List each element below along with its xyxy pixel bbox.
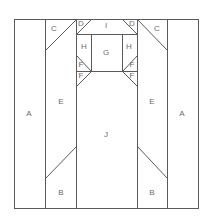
piece-label-c-right: C	[154, 24, 160, 33]
piece-label-h-left: H	[81, 42, 87, 51]
piece-label-e-left: E	[58, 97, 63, 106]
piece-label-b-right: B	[149, 188, 154, 197]
piece-label-c-left: C	[51, 24, 57, 33]
b-diagonal-right	[138, 147, 168, 179]
piece-label-d-right: D	[129, 19, 135, 28]
piece-label-a-left: A	[26, 109, 32, 118]
piece-label-a-right: A	[179, 109, 185, 118]
piece-label-b-left: B	[58, 188, 63, 197]
piece-label-d-left: D	[78, 19, 84, 28]
piece-label-j: J	[104, 130, 108, 139]
quilt-block-diagram: AABBCCDDEEFFFFGHHIJ	[0, 0, 210, 224]
piece-label-f-right-bottom: F	[130, 71, 135, 80]
piece-label-e-right: E	[149, 97, 154, 106]
piece-label-h-right: H	[126, 42, 132, 51]
b-diagonal-left	[46, 147, 77, 179]
piece-label-f-left-bottom: F	[79, 71, 84, 80]
piece-label-i: I	[105, 21, 107, 30]
c-diagonal-right	[138, 20, 168, 51]
piece-label-g: G	[103, 48, 109, 57]
piece-label-f-right-top: F	[130, 60, 135, 69]
piece-label-f-left-top: F	[79, 60, 84, 69]
